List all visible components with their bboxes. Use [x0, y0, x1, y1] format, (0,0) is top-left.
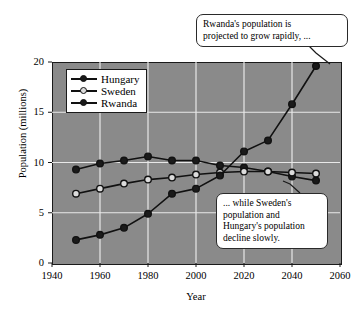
callout-decline-line1: ... while Sweden's: [223, 198, 321, 210]
x-tick-1940: 1940: [32, 270, 72, 281]
y-tick-0: 0: [16, 257, 44, 268]
callout-decline-line2: population and: [223, 210, 321, 222]
legend-item-sweden: Sweden: [71, 85, 140, 97]
x-tick-2040: 2040: [272, 270, 312, 281]
population-line-chart: 05101520 1940196019802000202020402060 Po…: [0, 0, 355, 317]
legend-item-rwanda: Rwanda: [71, 97, 140, 109]
legend-marker-sweden: [71, 85, 97, 97]
callout-decline-line4: decline slowly.: [223, 233, 321, 245]
chart-legend: Hungary Sweden Rwanda: [66, 69, 147, 113]
x-tick-1960: 1960: [80, 270, 120, 281]
y-tick-5: 5: [16, 207, 44, 218]
x-tick-2060: 2060: [320, 270, 355, 281]
callout-rwanda-growth: Rwanda's population is projected to grow…: [196, 14, 348, 47]
legend-label-rwanda: Rwanda: [97, 97, 137, 109]
legend-marker-rwanda: [71, 97, 97, 109]
x-axis-title: Year: [52, 291, 340, 302]
callout-rwanda-line2: projected to grow rapidly, ...: [203, 31, 341, 43]
legend-label-hungary: Hungary: [97, 73, 140, 85]
x-tick-2020: 2020: [224, 270, 264, 281]
x-tick-2000: 2000: [176, 270, 216, 281]
legend-label-sweden: Sweden: [97, 85, 136, 97]
legend-marker-hungary: [71, 73, 97, 85]
callout-decline-line3: Hungary's population: [223, 221, 321, 233]
y-axis-title: Population (millions): [17, 64, 28, 204]
callout-rwanda-line1: Rwanda's population is: [203, 19, 341, 31]
x-tick-1980: 1980: [128, 270, 168, 281]
callout-decline-note: ... while Sweden's population and Hungar…: [216, 193, 328, 249]
legend-item-hungary: Hungary: [71, 73, 140, 85]
